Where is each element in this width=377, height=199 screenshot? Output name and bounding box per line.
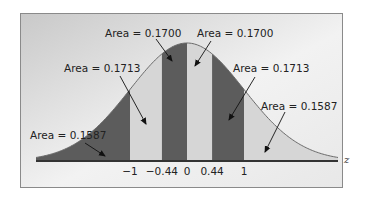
area-label: Area = 0.1587 [261, 100, 337, 112]
x-tick-label: −1 [122, 165, 137, 177]
z-axis-label: z [343, 154, 350, 165]
x-tick-label: −0.44 [146, 165, 178, 177]
region-3 [187, 43, 212, 161]
region-2 [162, 43, 187, 161]
x-tick-label: 0.44 [200, 165, 224, 177]
area-label: Area = 0.1713 [233, 62, 309, 74]
normal-distribution-chart: z −1−0.4400.441 Area = 0.1587Area = 0.17… [0, 0, 377, 199]
x-tick-label: 0 [184, 165, 191, 177]
area-label: Area = 0.1713 [64, 62, 140, 74]
area-label: Area = 0.1587 [30, 129, 106, 141]
x-tick-label: 1 [241, 165, 248, 177]
area-label: Area = 0.1700 [197, 27, 273, 39]
area-label: Area = 0.1700 [105, 27, 181, 39]
